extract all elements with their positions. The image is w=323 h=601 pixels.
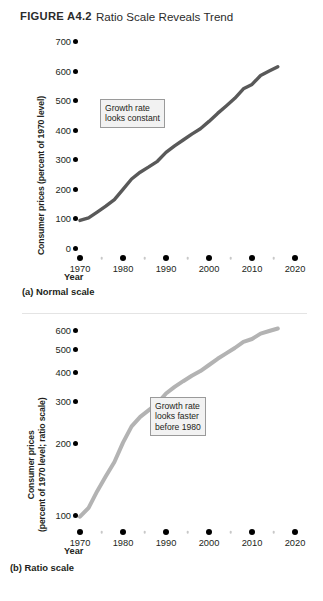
y-tick-0: 0 (32, 244, 78, 254)
x-tick-label-1990: 1990 (156, 264, 177, 274)
x-tick-label-2000: 2000 (199, 538, 220, 548)
x-tick-label-2010: 2010 (242, 264, 263, 274)
x-tick-dot-2020 (292, 255, 298, 261)
y-tick-300: 300 (32, 397, 78, 407)
x-tick-dot-1980 (120, 255, 126, 261)
y-tick-300: 300 (32, 155, 78, 165)
x-minor-tick-2015 (272, 257, 275, 260)
y-axis-title-normal: Consumer prices (percent of 1970 level) (36, 96, 46, 255)
x-axis-title-normal: Year (64, 272, 83, 282)
x-minor-tick-2005 (229, 257, 232, 260)
panel-normal-scale: Consumer prices (percent of 1970 level) … (0, 30, 323, 295)
panel-caption-ratio: (b) Ratio scale (10, 562, 74, 573)
x-tick-dot-2010 (249, 255, 255, 261)
x-tick-dot-2020 (292, 529, 298, 535)
x-tick-label-1980: 1980 (113, 264, 134, 274)
x-tick-dot-1970 (77, 529, 83, 535)
x-tick-dot-1990 (163, 255, 169, 261)
x-minor-tick-1975 (100, 257, 103, 260)
x-minor-tick-1985 (143, 257, 146, 260)
panel-ratio-scale: Consumer prices (percent of 1970 level; … (0, 300, 323, 595)
x-minor-tick-1975 (100, 531, 103, 534)
x-tick-dot-1980 (120, 529, 126, 535)
figure-title: Ratio Scale Reveals Trend (96, 10, 233, 23)
annotation-growth-faster: Growth rate looks faster before 1980 (150, 397, 206, 436)
x-tick-label-2020: 2020 (285, 538, 306, 548)
y-tick-200: 200 (32, 439, 78, 449)
chart-ratio-scale: Consumer prices (percent of 1970 level; … (0, 300, 323, 595)
x-tick-dot-2000 (206, 255, 212, 261)
y-tick-400: 400 (32, 368, 78, 378)
x-minor-tick-1995 (186, 257, 189, 260)
panel-caption-normal: (a) Normal scale (22, 286, 94, 297)
x-tick-dot-2000 (206, 529, 212, 535)
x-tick-dot-1970 (77, 255, 83, 261)
y-tick-500: 500 (32, 96, 78, 106)
x-tick-label-1990: 1990 (156, 538, 177, 548)
x-tick-dot-1990 (163, 529, 169, 535)
x-tick-label-2000: 2000 (199, 264, 220, 274)
y-tick-200: 200 (32, 185, 78, 195)
annotation-growth-constant: Growth rate looks constant (100, 99, 165, 128)
figure-number: FIGURE A4.2 (20, 10, 92, 22)
y-tick-500: 500 (32, 345, 78, 355)
x-axis-title-ratio: Year (64, 546, 83, 556)
chart-normal-scale: Consumer prices (percent of 1970 level) … (0, 30, 323, 295)
x-tick-label-2020: 2020 (285, 264, 306, 274)
x-minor-tick-1995 (186, 531, 189, 534)
figure-header: FIGURE A4.2 Ratio Scale Reveals Trend (0, 0, 323, 34)
x-minor-tick-2015 (272, 531, 275, 534)
x-tick-label-2010: 2010 (242, 538, 263, 548)
y-tick-100: 100 (32, 511, 78, 521)
y-tick-600: 600 (32, 326, 78, 336)
x-tick-label-1980: 1980 (113, 538, 134, 548)
y-tick-100: 100 (32, 214, 78, 224)
y-tick-400: 400 (32, 126, 78, 136)
x-tick-dot-2010 (249, 529, 255, 535)
x-minor-tick-2005 (229, 531, 232, 534)
y-tick-600: 600 (32, 67, 78, 77)
x-minor-tick-1985 (143, 531, 146, 534)
y-tick-700: 700 (32, 37, 78, 47)
